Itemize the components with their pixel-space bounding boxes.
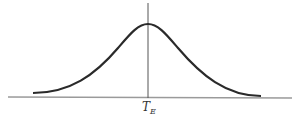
bell-curve-diagram: TE [0,0,298,126]
center-label: TE [142,100,156,116]
x-axis [8,97,292,98]
bell-curve [33,24,261,96]
